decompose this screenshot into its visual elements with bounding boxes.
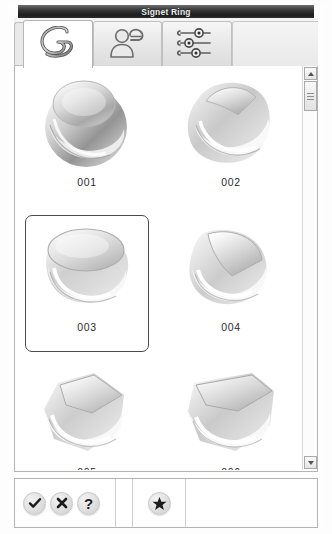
title-bar: Signet Ring — [18, 5, 314, 18]
sliders-icon — [176, 26, 218, 64]
ok-button[interactable] — [23, 492, 46, 515]
ring-item-label: 004 — [221, 321, 241, 333]
ring-gallery-grid: 001 — [15, 66, 303, 470]
app-window: Signet Ring — [0, 0, 332, 534]
question-icon: ? — [84, 496, 93, 511]
tab-strip-left-stub — [14, 22, 23, 66]
chevron-down-icon — [308, 461, 314, 465]
toolbar-empty-section — [186, 479, 317, 527]
ring-thumbnail — [176, 216, 286, 320]
tab-settings[interactable] — [162, 21, 232, 67]
ring-thumbnail — [176, 361, 286, 465]
scroll-down-button[interactable] — [304, 456, 317, 469]
help-button[interactable]: ? — [77, 492, 100, 515]
ring-item-004[interactable]: 004 — [159, 211, 303, 356]
ring-item-005[interactable]: 005 — [15, 356, 159, 470]
ring-gallery-viewport: 001 — [15, 66, 303, 470]
ring-thumbnail — [32, 71, 142, 175]
window-title: Signet Ring — [141, 7, 190, 17]
cancel-button[interactable] — [50, 492, 73, 515]
star-icon — [152, 496, 167, 511]
ring-item-label: 006 — [221, 466, 241, 470]
grip-icon — [307, 93, 314, 100]
ring-item-006[interactable]: 006 — [159, 356, 303, 470]
bottom-toolbar: ? — [14, 478, 318, 528]
ring-item-label: 003 — [77, 321, 97, 333]
ring-item-label: 001 — [77, 176, 97, 188]
toolbar-actions-section: ? — [15, 479, 116, 527]
scroll-up-button[interactable] — [304, 67, 317, 80]
ring-item-003[interactable]: 003 — [15, 211, 159, 356]
toolbar-favorite-section — [133, 479, 186, 527]
ring-gallery-panel: 001 — [14, 66, 318, 472]
chevron-up-icon — [308, 72, 314, 76]
tab-strip — [14, 18, 318, 66]
vertical-scrollbar[interactable] — [302, 66, 317, 470]
person-ring-icon — [108, 26, 148, 64]
favorite-button[interactable] — [148, 492, 171, 515]
ring-item-001[interactable]: 001 — [15, 66, 159, 211]
scrollbar-track[interactable] — [304, 113, 317, 455]
ring-item-label: 002 — [221, 176, 241, 188]
ring-icon — [37, 26, 79, 64]
ring-thumbnail — [176, 71, 286, 175]
tab-wearer[interactable] — [93, 21, 162, 67]
ring-item-002[interactable]: 002 — [159, 66, 303, 211]
close-icon — [55, 496, 69, 510]
ring-thumbnail — [32, 361, 142, 465]
tab-rings[interactable] — [23, 20, 93, 68]
check-icon — [28, 496, 42, 510]
scrollbar-thumb[interactable] — [304, 81, 317, 111]
ring-thumbnail — [32, 216, 142, 320]
tab-strip-filler — [232, 21, 318, 67]
toolbar-separator-section — [116, 479, 133, 527]
ring-item-label: 005 — [77, 466, 97, 470]
